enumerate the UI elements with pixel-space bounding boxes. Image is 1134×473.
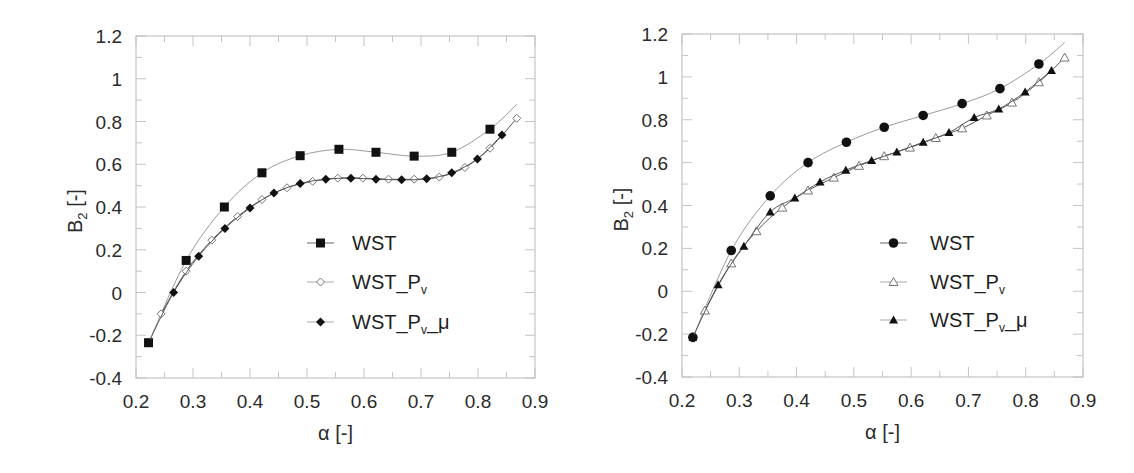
data-point-marker bbox=[371, 175, 380, 184]
series-wst-pv bbox=[700, 53, 1069, 314]
data-point-marker bbox=[269, 189, 278, 198]
data-point-marker bbox=[1034, 59, 1044, 69]
y-tick-label: 0.8 bbox=[96, 112, 122, 133]
x-axis-label: α [-] bbox=[318, 422, 353, 444]
data-point-marker bbox=[842, 137, 852, 147]
data-point-marker bbox=[765, 191, 775, 201]
y-tick-label: 1 bbox=[111, 69, 122, 90]
x-tick-label: 0.3 bbox=[180, 391, 206, 412]
x-tick-label: 0.2 bbox=[669, 390, 695, 411]
x-tick-label: 0.4 bbox=[783, 390, 810, 411]
legend-marker-icon bbox=[317, 278, 325, 286]
x-tick-label: 0.8 bbox=[465, 391, 491, 412]
data-point-marker bbox=[371, 148, 380, 157]
data-point-marker bbox=[1060, 53, 1069, 61]
y-axis-label: B2 [-] bbox=[64, 189, 90, 233]
y-tick-label: 0.2 bbox=[96, 240, 122, 261]
x-tick-label: 0.5 bbox=[841, 390, 867, 411]
y-tick-label: 1.2 bbox=[642, 24, 668, 45]
x-tick-label: 0.6 bbox=[351, 391, 377, 412]
legend-label: WST bbox=[930, 232, 974, 254]
legend-label: WST_Pv_μ bbox=[352, 311, 450, 337]
x-tick-label: 0.9 bbox=[522, 391, 548, 412]
legend-item: WST_Pv bbox=[307, 271, 427, 297]
x-tick-label: 0.8 bbox=[1013, 390, 1039, 411]
data-point-marker bbox=[841, 166, 850, 174]
data-point-marker bbox=[296, 179, 305, 188]
data-point-marker bbox=[397, 175, 406, 184]
data-point-marker bbox=[957, 99, 967, 109]
y-tick-labels: 1.210.80.60.40.20-0.2-0.4 bbox=[635, 24, 668, 388]
y-tick-label: 0.4 bbox=[642, 196, 669, 217]
legend-item: WST_Pv bbox=[880, 271, 1005, 297]
data-point-marker bbox=[346, 174, 355, 183]
legend-label: WST_Pv bbox=[352, 271, 427, 297]
series-line bbox=[705, 58, 1065, 311]
data-point-marker bbox=[422, 174, 431, 183]
legend-label: WST_Pv_μ bbox=[930, 309, 1028, 335]
legend-item: WST bbox=[880, 232, 974, 254]
y-tick-label: -0.2 bbox=[89, 325, 122, 346]
data-point-marker bbox=[803, 158, 813, 168]
legend-marker-icon bbox=[316, 239, 325, 248]
data-point-marker bbox=[485, 125, 494, 134]
data-point-marker bbox=[296, 151, 305, 160]
y-tick-label: 0.4 bbox=[96, 197, 123, 218]
legend: WSTWST_PvWST_Pv_μ bbox=[307, 232, 450, 337]
x-tick-label: 0.7 bbox=[955, 390, 981, 411]
y-tick-label: 0.8 bbox=[642, 110, 668, 131]
y-tick-label: 0 bbox=[111, 283, 122, 304]
legend-item: WST bbox=[307, 232, 396, 254]
data-point-marker bbox=[447, 148, 456, 157]
y-tick-label: -0.4 bbox=[635, 367, 668, 388]
y-tick-label: 0.6 bbox=[96, 154, 122, 175]
axis-ticks bbox=[136, 36, 535, 378]
series-wst-pv- bbox=[688, 66, 1056, 341]
data-point-marker bbox=[739, 242, 748, 250]
data-point-marker bbox=[182, 256, 191, 265]
data-point-marker bbox=[321, 175, 330, 184]
data-point-marker bbox=[447, 168, 456, 177]
legend-item: WST_Pv_μ bbox=[880, 309, 1028, 335]
y-tick-label: 0.6 bbox=[642, 153, 668, 174]
data-point-marker bbox=[790, 193, 799, 201]
data-point-marker bbox=[410, 152, 419, 161]
data-point-marker bbox=[461, 163, 469, 171]
series-line bbox=[693, 43, 1065, 338]
data-point-marker bbox=[816, 177, 825, 185]
plot-frame bbox=[136, 36, 535, 378]
legend-label: WST bbox=[352, 232, 396, 254]
series-wst-pv- bbox=[144, 130, 506, 347]
y-tick-label: 1.2 bbox=[96, 26, 122, 47]
y-tick-label: 0 bbox=[657, 281, 668, 302]
data-point-marker bbox=[334, 145, 343, 154]
chart-left-panel: 0.20.30.40.50.60.70.80.91.210.80.60.40.2… bbox=[0, 0, 567, 473]
y-tick-labels: 1.210.80.60.40.20-0.2-0.4 bbox=[89, 26, 122, 389]
data-point-marker bbox=[257, 168, 266, 177]
y-axis-label: B2 [-] bbox=[610, 188, 636, 232]
x-tick-label: 0.4 bbox=[237, 391, 264, 412]
data-point-marker bbox=[970, 113, 979, 121]
legend: WSTWST_PvWST_Pv_μ bbox=[880, 232, 1028, 335]
data-point-marker bbox=[700, 306, 709, 314]
y-tick-label: -0.4 bbox=[89, 368, 122, 389]
legend-marker-icon bbox=[889, 238, 899, 248]
x-axis-label: α [-] bbox=[865, 421, 900, 443]
x-tick-label: 0.7 bbox=[408, 391, 434, 412]
series-line bbox=[149, 104, 517, 342]
x-tick-label: 0.2 bbox=[123, 391, 149, 412]
x-tick-label: 0.3 bbox=[726, 390, 752, 411]
legend-label: WST_Pv bbox=[930, 271, 1005, 297]
x-tick-label: 0.5 bbox=[294, 391, 320, 412]
legend-marker-icon bbox=[316, 318, 325, 327]
y-tick-label: 1 bbox=[657, 67, 668, 88]
data-point-marker bbox=[879, 122, 889, 132]
data-point-marker bbox=[766, 207, 775, 215]
data-point-marker bbox=[220, 203, 229, 212]
data-point-marker bbox=[169, 288, 178, 297]
series-wst bbox=[688, 43, 1065, 343]
x-tick-labels: 0.20.30.40.50.60.70.80.9 bbox=[669, 390, 1096, 411]
data-point-marker bbox=[726, 246, 736, 256]
series-wst bbox=[144, 104, 517, 347]
left-plot-svg: 0.20.30.40.50.60.70.80.91.210.80.60.40.2… bbox=[0, 0, 567, 473]
